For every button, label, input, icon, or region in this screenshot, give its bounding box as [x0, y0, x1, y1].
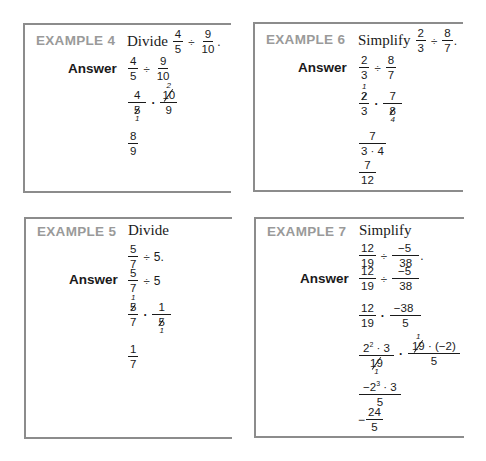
- example-7-step-1: 1219 ÷ −538: [358, 265, 420, 292]
- example-4-step-1: 45 ÷ 910: [127, 55, 173, 82]
- example-5-verb: Divide: [128, 222, 169, 239]
- example-7-step-2: 1219 · −385: [358, 302, 422, 329]
- example-7-verb: Simplify: [359, 222, 412, 239]
- example-6-verb: Simplify: [358, 32, 411, 49]
- example-6-problem: Simplify 23 ÷ 87 .: [358, 27, 457, 54]
- fraction: 45: [173, 28, 183, 55]
- example-4-step-2: 451 · 1029: [127, 89, 178, 116]
- example-4-label: EXAMPLE 4: [36, 33, 115, 48]
- example-6-step-3: 73 · 4: [358, 130, 387, 157]
- example-6-step-1: 23 ÷ 87: [358, 54, 397, 81]
- example-4-verb: Divide: [127, 33, 168, 50]
- example-6-step-2: 213 · 784: [358, 90, 403, 117]
- example-5-step-3: 17: [127, 343, 139, 370]
- example-4-answer-label: Answer: [68, 61, 117, 76]
- example-5-problem: 57 ÷ 5.: [127, 243, 164, 270]
- example-4-step-3: 89: [127, 130, 139, 157]
- example-5-answer-label: Answer: [69, 272, 118, 287]
- example-7-label: EXAMPLE 7: [267, 224, 346, 239]
- example-6-answer-label: Answer: [298, 60, 347, 75]
- example-6-label: EXAMPLE 6: [266, 32, 345, 47]
- fraction: 910: [200, 28, 217, 55]
- example-5-step-2: 517 · 151: [127, 301, 172, 328]
- example-5-label: EXAMPLE 5: [37, 224, 116, 239]
- example-7-answer-label: Answer: [300, 271, 349, 286]
- example-6-step-4: 712: [358, 159, 377, 186]
- example-4-problem: Divide 45 ÷ 910 .: [127, 28, 221, 55]
- example-7-step-3: 22 · 3191 · 191 · (−2)5: [358, 339, 461, 369]
- example-5-step-1: 57 ÷ 5: [127, 267, 160, 294]
- example-7-step-4: −23 · 35: [358, 378, 402, 408]
- example-7-step-5: − 245: [358, 406, 384, 433]
